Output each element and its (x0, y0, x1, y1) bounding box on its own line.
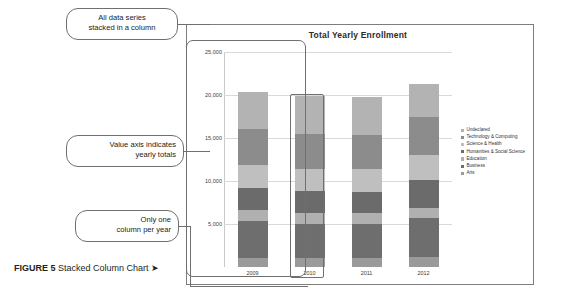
legend-item[interactable]: Science & Health (461, 142, 539, 147)
legend-item[interactable]: Business (461, 164, 539, 169)
figure-caption-label: FIGURE 5 (14, 263, 56, 273)
figure-caption-arrow: ➤ (151, 263, 159, 273)
column-segment[interactable] (352, 169, 382, 191)
legend-swatch-icon (461, 150, 464, 153)
column-segment[interactable] (409, 117, 439, 155)
callout-series-connector (178, 24, 210, 25)
legend-item[interactable]: Technology & Computing (461, 135, 539, 140)
legend-swatch-icon (461, 129, 464, 132)
callout-column-line1: Only one (83, 215, 171, 225)
column-segment[interactable] (352, 258, 382, 267)
figure-caption: FIGURE 5 Stacked Column Chart ➤ (14, 262, 164, 274)
stacked-column[interactable] (352, 97, 382, 267)
legend-swatch-icon (461, 136, 464, 139)
callout-column-line2: column per year (83, 225, 171, 235)
chart-title: Total Yearly Enrollment (243, 30, 473, 40)
x-axis-tick-label: 2012 (401, 270, 447, 276)
callout-axis-line1: Value axis indicates (74, 140, 176, 150)
legend-swatch-icon (461, 165, 464, 168)
callout-axis-line2: yearly totals (74, 150, 176, 160)
legend-item-label: Education (466, 157, 486, 162)
column-segment[interactable] (352, 135, 382, 170)
column-segment[interactable] (352, 224, 382, 259)
column-segment[interactable] (409, 208, 439, 219)
legend-item[interactable]: Arts (461, 171, 539, 176)
legend-item-label: Undeclared (466, 128, 490, 133)
callout-column-connector-h2 (190, 286, 308, 287)
legend-item-label: Business (466, 164, 485, 169)
column-segment[interactable] (409, 218, 439, 257)
legend-item[interactable]: Humanities & Social Science (461, 150, 539, 155)
column-segment[interactable] (409, 180, 439, 208)
x-axis-tick-label: 2011 (344, 270, 390, 276)
callout-axis-connector (184, 151, 210, 152)
legend-swatch-icon (461, 157, 464, 160)
column-segment[interactable] (409, 257, 439, 267)
legend-item-label: Science & Health (466, 142, 501, 147)
legend-item-label: Arts (466, 171, 474, 176)
column-segment[interactable] (409, 84, 439, 118)
callout-series-line1: All data series (74, 13, 170, 23)
column-segment[interactable] (409, 155, 439, 180)
column-segment[interactable] (352, 192, 382, 213)
legend-item-label: Humanities & Social Science (466, 150, 525, 155)
column-segment[interactable] (352, 97, 382, 135)
callout-all-data-series: All data series stacked in a column (66, 8, 178, 40)
legend-swatch-icon (461, 143, 464, 146)
highlight-value-axis (186, 40, 306, 277)
figure-screenshot: Total Yearly Enrollment 5,00010,00015,00… (0, 0, 561, 302)
legend-item[interactable]: Education (461, 157, 539, 162)
column-segment[interactable] (352, 213, 382, 223)
callout-value-axis: Value axis indicates yearly totals (66, 135, 184, 167)
callout-one-column: Only one column per year (75, 210, 179, 242)
chart-legend: UndeclaredTechnology & ComputingScience … (461, 128, 539, 178)
legend-swatch-icon (461, 172, 464, 175)
figure-caption-text: Stacked Column Chart (56, 263, 152, 273)
stacked-column[interactable] (409, 84, 439, 267)
legend-item-label: Technology & Computing (466, 135, 517, 140)
callout-column-connector-v (190, 226, 191, 286)
callout-series-line2: stacked in a column (74, 23, 170, 33)
legend-item[interactable]: Undeclared (461, 128, 539, 133)
